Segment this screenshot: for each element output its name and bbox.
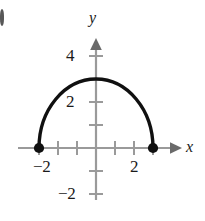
plot-canvas [0,0,205,221]
y-axis-label: y [89,10,96,26]
semicircle-graph-figure: y x −2 2 4 2 −2 [0,0,205,221]
y-tick-label-neg2: −2 [58,185,76,202]
y-tick-label-2: 2 [66,93,74,110]
x-tick-label-pos2: 2 [130,158,138,175]
x-tick-label-neg2: −2 [33,158,51,175]
endpoint-left-dot [34,143,44,153]
endpoint-right-dot [148,143,158,153]
x-axis-arrowhead [170,142,182,154]
y-axis-arrowhead [90,38,102,50]
x-axis-label: x [186,139,193,155]
y-tick-label-4: 4 [66,47,74,64]
